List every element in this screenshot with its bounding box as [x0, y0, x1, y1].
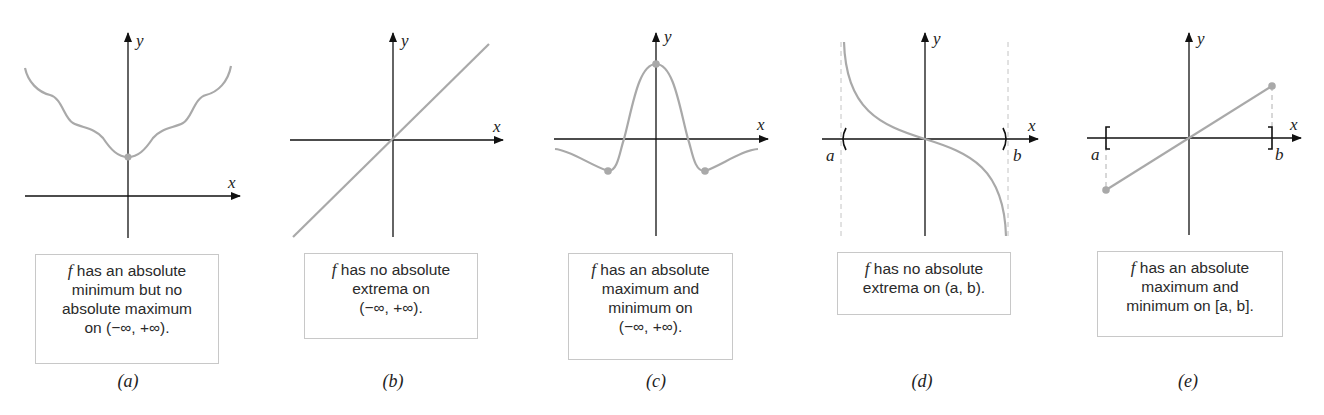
- panel-d-graph: y x a b: [822, 29, 1038, 237]
- x-axis-label: x: [1289, 115, 1298, 134]
- panel-e-caption: (e): [1178, 371, 1198, 392]
- panel-d-description: f has no absolute extrema on (a, b).: [837, 252, 1011, 315]
- description-line: has no absolute: [874, 260, 983, 277]
- f-symbol: f: [865, 259, 870, 278]
- y-axis-label: y: [1195, 29, 1205, 48]
- panel-e-description: f has an absolute maximum and minimum on…: [1097, 251, 1283, 337]
- y-axis-label: y: [134, 31, 144, 50]
- f-symbol: f: [332, 260, 337, 279]
- y-axis-label: y: [662, 27, 672, 46]
- description-line: minimum on [a, b].: [1102, 296, 1278, 315]
- absolute-min-point-right: [701, 167, 709, 175]
- description-line: (−∞, +∞).: [309, 298, 473, 317]
- b-label: b: [1013, 146, 1022, 165]
- description-line: has an absolute: [1140, 259, 1249, 276]
- panel-c-caption: (c): [646, 371, 666, 392]
- description-line: maximum and: [1102, 277, 1278, 296]
- panel-d-caption: (d): [912, 371, 933, 392]
- b-label: b: [1275, 145, 1284, 164]
- panel-a-description: f has an absolute minimum but no absolut…: [35, 254, 219, 364]
- description-line: absolute maximum: [40, 299, 214, 318]
- panel-a-graph: y x: [25, 31, 240, 238]
- panel-a-caption: (a): [118, 371, 139, 392]
- absolute-min-point: [125, 154, 132, 161]
- a-label: a: [1091, 145, 1100, 164]
- f-symbol: f: [68, 261, 73, 280]
- description-line: has an absolute: [600, 261, 709, 278]
- x-axis-label: x: [492, 117, 501, 136]
- panel-c-description: f has an absolute maximum and minimum on…: [568, 253, 733, 360]
- y-axis-label: y: [931, 29, 941, 48]
- f-symbol: f: [1131, 258, 1136, 277]
- panel-b-graph: y x: [290, 31, 503, 237]
- panel-b-description: f has no absolute extrema on (−∞, +∞).: [304, 253, 478, 339]
- f-symbol: f: [591, 260, 596, 279]
- absolute-max-point: [652, 60, 660, 68]
- absolute-max-point: [1268, 82, 1276, 90]
- panel-e-graph: y x a b: [1087, 29, 1301, 235]
- description-line: on (−∞, +∞).: [40, 318, 214, 337]
- description-line: maximum and: [573, 279, 728, 298]
- panel-c-graph: y x: [554, 27, 768, 236]
- panel-b-caption: (b): [383, 371, 404, 392]
- description-line: minimum on: [573, 298, 728, 317]
- description-line: has no absolute: [341, 261, 450, 278]
- y-axis-label: y: [399, 31, 409, 50]
- a-label: a: [826, 146, 835, 165]
- absolute-min-point: [1102, 186, 1110, 194]
- description-line: extrema on (a, b).: [842, 278, 1006, 297]
- x-axis-label: x: [1027, 116, 1036, 135]
- x-axis-label: x: [756, 115, 765, 134]
- absolute-min-point-left: [604, 167, 612, 175]
- description-line: (−∞, +∞).: [573, 317, 728, 336]
- description-line: has an absolute: [77, 262, 186, 279]
- description-line: minimum but no: [40, 280, 214, 299]
- x-axis-label: x: [227, 173, 236, 192]
- description-line: extrema on: [309, 279, 473, 298]
